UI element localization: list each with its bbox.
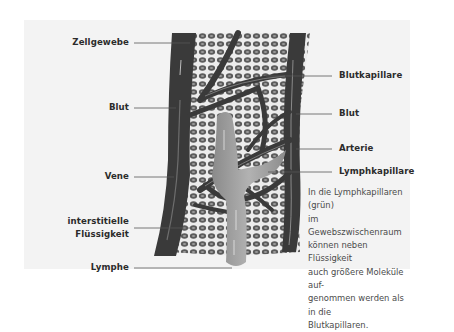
caption-line: Blutkapillaren. [308,319,408,332]
label-fluessigkeit: Flüssigkeit [50,229,129,240]
label-blutkapillare: Blutkapillare [339,70,402,81]
label-lymphkapillare: Lymphkapillare [339,166,415,177]
label-zellgewebe: Zellgewebe [60,37,129,48]
caption-line: auch größere Moleküle auf- [308,266,408,293]
caption-line: In die Lymphkapillaren (grün) [308,186,408,213]
caption-line: im Gewebszwischenraum [308,213,408,240]
label-lymphe: Lymphe [60,262,129,273]
caption-line: genommen werden als in die [308,292,408,319]
label-blut-right: Blut [339,108,359,119]
label-arterie: Arterie [339,143,374,154]
caption-text: In die Lymphkapillaren (grün) im Gewebsz… [308,186,408,332]
label-interstitielle: interstitielle [50,216,129,227]
caption-line: können neben Flüssigkeit [308,239,408,266]
label-vene: Vene [60,171,129,182]
label-blut-left: Blut [60,102,129,113]
